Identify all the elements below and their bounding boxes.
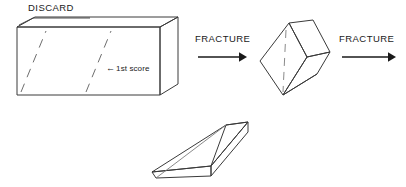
fracture-label-1: FRACTURE [195, 34, 250, 44]
arrow-1-head [239, 52, 247, 62]
first-score-label: 1st score [116, 64, 149, 73]
discard-leader-line [19, 18, 90, 25]
stage-3-final-wedge [152, 122, 248, 178]
wedge-base-facet [152, 166, 211, 178]
fracture-label-2: FRACTURE [339, 34, 394, 44]
fracture-arrow-2 [342, 52, 396, 62]
arrow-2-head [388, 52, 396, 62]
block-right-face [160, 17, 178, 95]
score-line-first-score [86, 31, 111, 92]
rhomboid-side-facet [283, 52, 330, 95]
score-line-discard-edge [21, 31, 46, 92]
left-arrow-icon: ← [106, 63, 116, 73]
block-score-lines [21, 31, 111, 92]
wedge-top-facet [152, 122, 248, 172]
fracture-sequence-diagram: DISCARD FRACTURE FRACTURE ←1st score [0, 0, 406, 187]
score-line-rhomboid [283, 30, 286, 92]
wedge-apex-edge [226, 122, 248, 125]
diagram-canvas [0, 0, 406, 187]
stage-2-fractured-rhomboid [260, 20, 330, 95]
rhomboid-top-facet [289, 20, 330, 57]
fracture-arrow-1 [198, 52, 247, 62]
rhomboid-score-line [283, 30, 286, 92]
block-top-face [17, 17, 178, 27]
rhomboid-bottom-edge [283, 74, 317, 95]
stage-1-scored-block [17, 17, 178, 95]
wedge-end-facet [211, 122, 248, 176]
first-score-annotation: ←1st score [106, 64, 149, 73]
discard-label: DISCARD [28, 3, 74, 13]
